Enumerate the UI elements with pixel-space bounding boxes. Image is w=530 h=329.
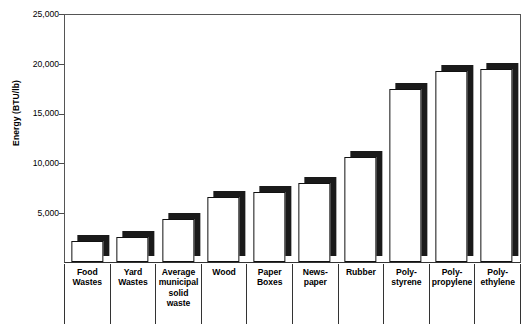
bar-front bbox=[71, 241, 103, 262]
y-axis-ticks: 25,00020,00015,00010,0005,000 bbox=[0, 0, 59, 280]
bar-front bbox=[208, 197, 240, 262]
category-label-line: Average bbox=[156, 267, 201, 277]
bar-cell bbox=[475, 15, 521, 262]
y-tick-label: 20,000 bbox=[7, 60, 59, 69]
category-label-line: Poly- bbox=[430, 267, 475, 277]
category-label-line: Rubber bbox=[339, 267, 384, 277]
category-label-line: News- bbox=[293, 267, 338, 277]
y-tick-label: 5,000 bbox=[7, 209, 59, 218]
bar-front bbox=[253, 192, 285, 262]
bar-cell bbox=[293, 15, 339, 262]
category-label: Wood bbox=[202, 264, 248, 324]
category-label-line: waste bbox=[156, 298, 201, 308]
bar-front bbox=[299, 183, 331, 262]
category-label: Averagemunicipalsolidwaste bbox=[156, 264, 202, 324]
bar-cell bbox=[111, 15, 157, 262]
category-label-line: solid bbox=[156, 288, 201, 298]
bar-front bbox=[435, 71, 467, 262]
bar-front bbox=[117, 237, 149, 262]
bar-cell bbox=[202, 15, 248, 262]
bar-cell bbox=[384, 15, 430, 262]
category-label-line: Wastes bbox=[65, 277, 110, 287]
bar-front bbox=[481, 69, 513, 262]
category-label-line: Poly- bbox=[475, 267, 520, 277]
category-label-row: FoodWastesYardWastesAveragemunicipalsoli… bbox=[64, 264, 521, 324]
category-label: Poly-propylene bbox=[430, 264, 476, 324]
category-label-line: Yard bbox=[111, 267, 156, 277]
category-label-line: Food bbox=[65, 267, 110, 277]
category-label-line: Wastes bbox=[111, 277, 156, 287]
category-label-line: styrene bbox=[384, 277, 429, 287]
category-label-line: Wood bbox=[202, 267, 247, 277]
y-tick-label: 15,000 bbox=[7, 109, 59, 118]
bar-chart: Energy (BTU/lb) 25,00020,00015,00010,000… bbox=[0, 0, 530, 329]
category-label: FoodWastes bbox=[65, 264, 111, 324]
category-label-line: Poly- bbox=[384, 267, 429, 277]
y-tick-label: 10,000 bbox=[7, 159, 59, 168]
category-label: PaperBoxes bbox=[247, 264, 293, 324]
y-tick-label: 25,000 bbox=[7, 10, 59, 19]
category-label: Rubber bbox=[339, 264, 385, 324]
category-label-line: ethylene bbox=[475, 277, 520, 287]
bar-cell bbox=[429, 15, 475, 262]
bar-cell bbox=[247, 15, 293, 262]
bar-front bbox=[390, 89, 422, 262]
category-label-line: municipal bbox=[156, 277, 201, 287]
plot-area bbox=[64, 14, 521, 263]
category-label-line: propylene bbox=[430, 277, 475, 287]
bar-cell bbox=[156, 15, 202, 262]
category-label-line: Boxes bbox=[247, 277, 292, 287]
category-label-line: paper bbox=[293, 277, 338, 287]
category-label: YardWastes bbox=[111, 264, 157, 324]
category-label: News-paper bbox=[293, 264, 339, 324]
bar-front bbox=[162, 219, 194, 262]
category-label: Poly-styrene bbox=[384, 264, 430, 324]
bar-cell bbox=[338, 15, 384, 262]
bars-container bbox=[65, 15, 520, 262]
category-label: Poly-ethylene bbox=[475, 264, 520, 324]
category-label-line: Paper bbox=[247, 267, 292, 277]
bar-front bbox=[344, 157, 376, 262]
bar-cell bbox=[65, 15, 111, 262]
